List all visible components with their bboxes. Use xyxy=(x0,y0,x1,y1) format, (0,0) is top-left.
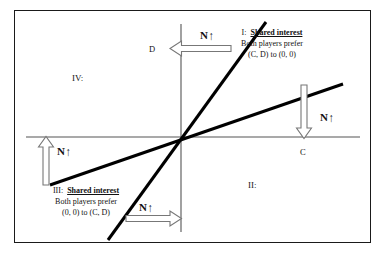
note-quadrant-iii: III: Shared interest Both players prefer… xyxy=(53,186,119,218)
note-quadrant-iii-title: Shared interest xyxy=(67,186,119,195)
n-label-left-text: N xyxy=(57,145,65,157)
diagram-svg xyxy=(0,0,386,258)
note-quadrant-iii-line3: (0, 0) to (C, D) xyxy=(53,208,119,219)
note-quadrant-iii-prefix: III: xyxy=(53,186,63,195)
arrow-up-left xyxy=(39,137,54,186)
quadrant-label-ii: II: xyxy=(248,180,257,191)
note-quadrant-iii-line2: Both players prefer xyxy=(53,197,119,208)
figure-canvas: D C IV: II: N↑ N↑ N↑ N↑ I: Shared intere… xyxy=(0,0,386,258)
axis-label-d: D xyxy=(149,44,155,54)
n-label-right: N↑ xyxy=(320,110,335,124)
n-label-top: N↑ xyxy=(200,28,215,42)
note-quadrant-i: I: Shared interest Both players prefer (… xyxy=(241,28,303,60)
arrow-down-right xyxy=(297,85,312,139)
note-quadrant-i-prefix: I: xyxy=(242,28,247,37)
n-label-top-text: N xyxy=(200,29,208,41)
axis-label-c: C xyxy=(300,147,306,157)
up-arrow-icon: ↑ xyxy=(66,145,72,159)
up-arrow-icon: ↑ xyxy=(148,201,154,215)
note-quadrant-i-title: Shared interest xyxy=(250,28,302,37)
note-quadrant-i-line3: (C, D) to (0, 0) xyxy=(241,50,303,61)
note-quadrant-i-line2: Both players prefer xyxy=(241,39,303,50)
shallow-reaction-line xyxy=(50,84,343,185)
n-label-right-text: N xyxy=(320,111,328,123)
quadrant-label-iv: IV: xyxy=(72,73,83,84)
up-arrow-icon: ↑ xyxy=(209,29,215,43)
n-label-bottom: N↑ xyxy=(139,200,154,214)
arrow-left-top xyxy=(170,41,231,56)
note-quadrant-i-heading: I: Shared interest xyxy=(241,28,303,39)
up-arrow-icon: ↑ xyxy=(329,111,335,125)
n-label-left: N↑ xyxy=(57,144,72,158)
note-quadrant-iii-heading: III: Shared interest xyxy=(53,186,119,197)
n-label-bottom-text: N xyxy=(139,201,147,213)
